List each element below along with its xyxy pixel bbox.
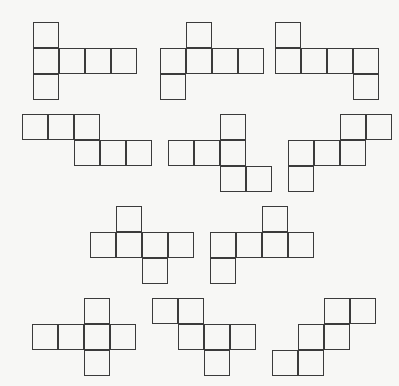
polyomino-cell [116, 206, 142, 232]
polyomino-cell [186, 48, 212, 74]
polyomino-cell [350, 298, 376, 324]
hexomino-9 [32, 298, 136, 376]
polyomino-cell [152, 298, 178, 324]
polyomino-cell [116, 232, 142, 258]
polyomino-cell [186, 22, 212, 48]
hexomino-4 [22, 114, 152, 166]
polyomino-cell [220, 140, 246, 166]
hexomino-11 [272, 298, 376, 376]
polyomino-cell [160, 74, 186, 100]
polyomino-cell [178, 298, 204, 324]
polyomino-cell [168, 232, 194, 258]
polyomino-cell [340, 114, 366, 140]
polyomino-cell [178, 324, 204, 350]
polyomino-cell [210, 258, 236, 284]
polyomino-cell [142, 258, 168, 284]
polyomino-cell [204, 324, 230, 350]
polyomino-cell [32, 324, 58, 350]
polyomino-cell [160, 48, 186, 74]
polyomino-cell [59, 48, 85, 74]
polyomino-cell [84, 298, 110, 324]
polyomino-cell [340, 140, 366, 166]
polyomino-cell [110, 324, 136, 350]
polyomino-cell [298, 324, 324, 350]
polyomino-cell [22, 114, 48, 140]
polyomino-cell [212, 48, 238, 74]
polyomino-cell [74, 114, 100, 140]
polyomino-cell [220, 114, 246, 140]
polyomino-cell [74, 140, 100, 166]
hexomino-8 [210, 206, 314, 284]
polyomino-cell [58, 324, 84, 350]
polyomino-cell [301, 48, 327, 74]
polyomino-cell [48, 114, 74, 140]
polyomino-cell [230, 324, 256, 350]
hexomino-1 [33, 22, 137, 100]
polyomino-cell [142, 232, 168, 258]
hexomino-2 [160, 22, 264, 100]
polyomino-cell [272, 350, 298, 376]
polyomino-cell [204, 350, 230, 376]
hexomino-5 [168, 114, 272, 192]
polyomino-cell [288, 140, 314, 166]
polyomino-cell [220, 166, 246, 192]
polyomino-cell [262, 232, 288, 258]
polyomino-cell [236, 232, 262, 258]
hexomino-3 [275, 22, 379, 100]
polyomino-cell [85, 48, 111, 74]
polyomino-cell [84, 350, 110, 376]
polyomino-cell [298, 350, 324, 376]
polyomino-cell [238, 48, 264, 74]
polyomino-cell [100, 140, 126, 166]
polyomino-cell [246, 166, 272, 192]
polyomino-cell [353, 48, 379, 74]
polyomino-cell [210, 232, 236, 258]
polyomino-figure [0, 0, 399, 386]
polyomino-cell [275, 22, 301, 48]
hexomino-10 [152, 298, 256, 376]
hexomino-6 [288, 114, 392, 192]
polyomino-cell [168, 140, 194, 166]
hexomino-7 [90, 206, 194, 284]
polyomino-cell [288, 232, 314, 258]
polyomino-cell [111, 48, 137, 74]
polyomino-cell [33, 22, 59, 48]
polyomino-cell [324, 324, 350, 350]
polyomino-cell [262, 206, 288, 232]
polyomino-cell [353, 74, 379, 100]
polyomino-cell [33, 74, 59, 100]
polyomino-cell [126, 140, 152, 166]
polyomino-cell [84, 324, 110, 350]
polyomino-cell [90, 232, 116, 258]
polyomino-cell [314, 140, 340, 166]
polyomino-cell [288, 166, 314, 192]
polyomino-cell [33, 48, 59, 74]
polyomino-cell [275, 48, 301, 74]
polyomino-cell [327, 48, 353, 74]
polyomino-cell [324, 298, 350, 324]
polyomino-cell [194, 140, 220, 166]
polyomino-cell [366, 114, 392, 140]
